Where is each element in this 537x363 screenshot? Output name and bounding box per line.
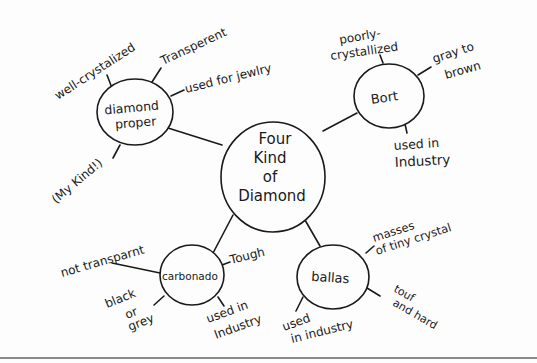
ballas-label: ballas: [311, 269, 350, 287]
connector-center-diamond-proper: [168, 128, 222, 145]
attr-my-kind: (My Kind!): [49, 156, 105, 206]
connector-tough: [222, 262, 230, 265]
center-node: Four Kind of Diamond: [221, 122, 325, 232]
node-ballas: ballas: [297, 245, 369, 309]
attr-tough: Tough: [227, 245, 266, 267]
mind-map-diagram: Four Kind of Diamond diamond proper Bort…: [0, 0, 537, 363]
node-carbonado: carbonado: [160, 245, 224, 305]
connector-used-for-jewlry: [171, 90, 184, 96]
center-label-line-1: Four: [259, 130, 293, 148]
center-label-line-2: Kind: [253, 149, 286, 167]
connector-not-transparnt: [112, 263, 160, 273]
connector-touf-and-hard: [367, 288, 380, 296]
attr-transperent: Transperent: [157, 25, 229, 68]
connector-poorly-crystallized: [380, 55, 383, 63]
connector-center-bort: [323, 113, 357, 131]
page-edge-line: [0, 357, 537, 359]
connector-center-ballas: [305, 220, 320, 246]
node-diamond-proper: diamond proper: [97, 79, 173, 145]
connector-bort-used-in-industry: [405, 124, 407, 133]
attr-gray-to-brown-line-2: brown: [443, 58, 482, 82]
attr-used-for-jewlry: used for jewlry: [183, 61, 273, 96]
carbonado-label: carbonado: [162, 270, 218, 282]
connector-carbonado-used-in-industry: [218, 297, 224, 306]
attr-bort-used-in-industry-line-1: used in: [393, 135, 439, 153]
connector-transperent: [152, 68, 161, 82]
connector-gray-to-brown: [418, 67, 431, 75]
center-label-line-3: of: [263, 168, 278, 186]
node-bort: Bort: [354, 64, 424, 128]
connector-black-or-grey: [154, 296, 164, 305]
connector-center-carbonado: [212, 215, 233, 255]
attr-touf-and-hard-line-2: and hard: [391, 296, 440, 332]
connector-ballas-used-in-industry: [296, 297, 303, 311]
connector-masses-of-tiny-crystal: [366, 246, 374, 253]
attr-not-transparnt: not transparnt: [59, 243, 146, 280]
connector-my-kind: [113, 145, 120, 158]
attr-bort-used-in-industry-line-2: Industry: [394, 151, 450, 170]
center-label-line-4: Diamond: [238, 187, 306, 205]
